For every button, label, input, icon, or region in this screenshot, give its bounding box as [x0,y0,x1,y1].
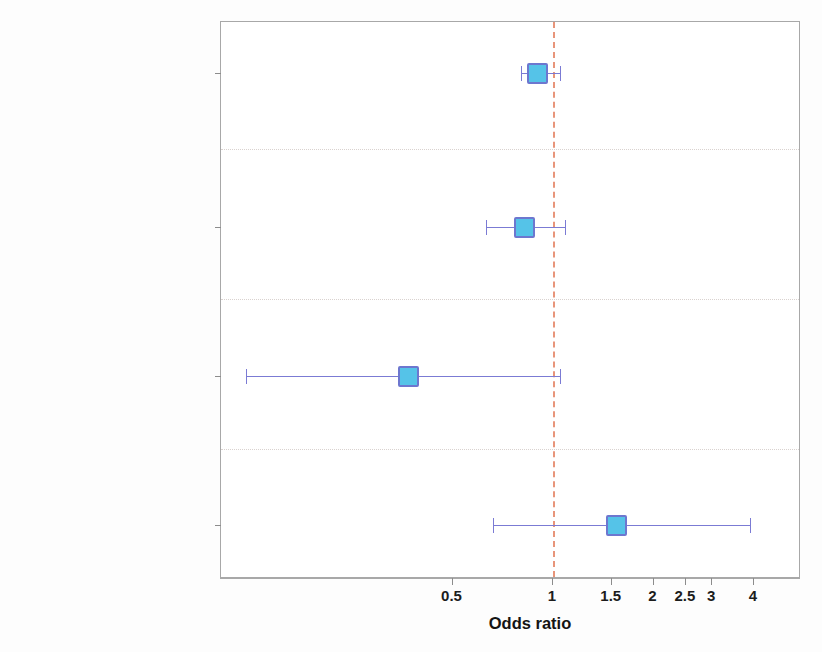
plot-panel [220,21,800,578]
row-separator [221,449,799,450]
x-tick-mark [552,578,553,585]
ci-upper-cap [750,518,751,533]
reference-line-or-1 [553,22,555,577]
x-tick-mark [753,578,754,585]
ci-lower-cap [486,220,487,235]
x-tick-label: 3 [707,587,715,604]
row-tick-mark [215,376,221,377]
x-tick-mark [452,578,453,585]
x-tick-label: 1.5 [600,587,621,604]
x-tick-label: 1 [548,587,556,604]
x-axis [220,578,800,579]
row-tick-mark [215,73,221,74]
x-tick-label: 2 [648,587,656,604]
x-axis-title: Odds ratio [489,614,572,633]
point-estimate-marker [606,515,627,536]
x-tick-label: 4 [749,587,757,604]
row-tick-mark [215,227,221,228]
ci-lower-cap [246,369,247,384]
point-estimate-marker [514,217,535,238]
forest-plot-figure: HDRS-0 [x+1] vs. [x] Duration of disease… [0,0,822,652]
ci-lower-cap [521,66,522,81]
ci-upper-cap [560,369,561,384]
ci-upper-cap [565,220,566,235]
x-tick-label: 2.5 [674,587,695,604]
point-estimate-marker [398,366,419,387]
x-tick-label: 0.5 [441,587,462,604]
row-separator [221,149,799,150]
row-separator [221,299,799,300]
point-estimate-marker [527,63,548,84]
row-tick-mark [215,525,221,526]
ci-lower-cap [493,518,494,533]
x-tick-mark [611,578,612,585]
x-tick-mark [685,578,686,585]
x-tick-mark [711,578,712,585]
ci-upper-cap [560,66,561,81]
x-tick-mark [653,578,654,585]
